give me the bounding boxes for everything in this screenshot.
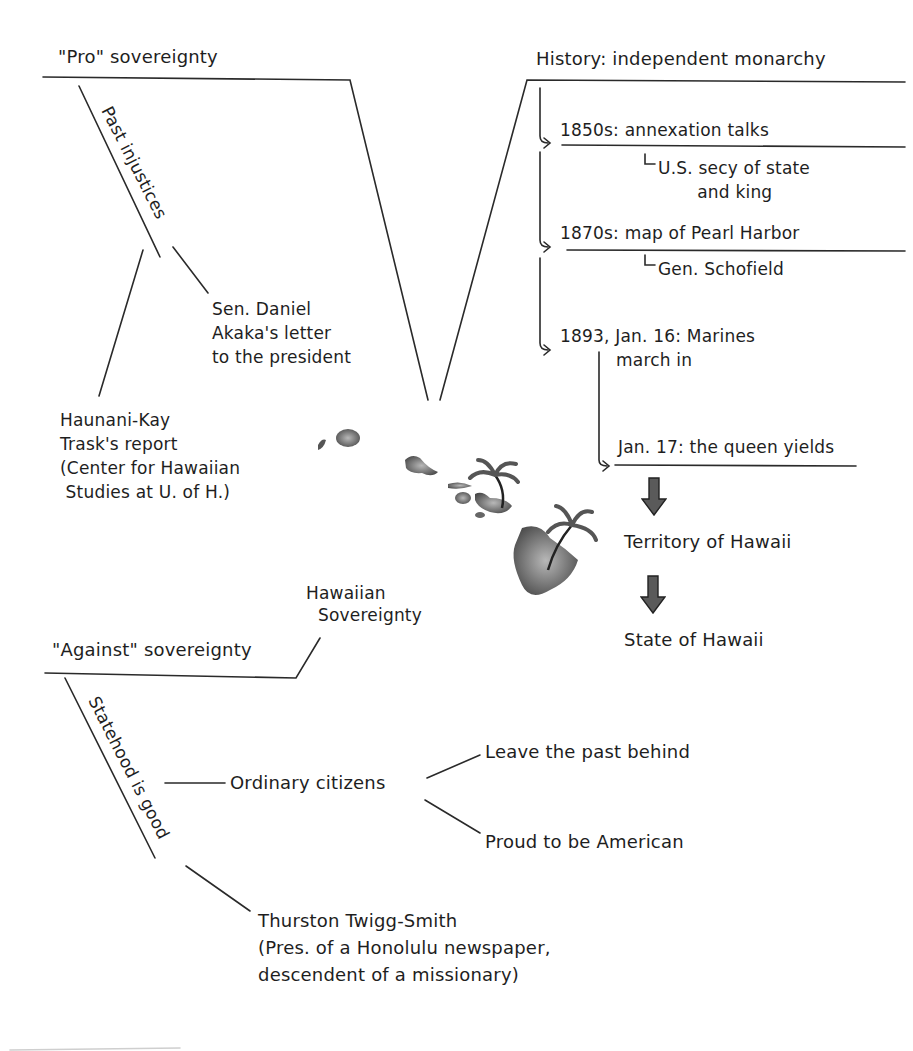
akaka-letter-item: Sen. Daniel Akaka's letter to the presid… — [212, 297, 351, 369]
arrow-1893 — [540, 258, 548, 350]
proud-american-connector — [425, 800, 480, 833]
against-sovereignty-heading: "Against" sovereignty — [52, 638, 252, 662]
arrow-1850s — [540, 88, 548, 143]
down-arrow-icon — [641, 477, 667, 517]
detail-tick-1850s — [645, 154, 655, 164]
arrow-1870s — [540, 152, 548, 247]
event-1893-jan16: 1893, Jan. 16: Marines march in — [560, 324, 755, 372]
state-of-hawaii: State of Hawaii — [624, 628, 764, 652]
leave-past-connector — [427, 755, 480, 778]
trask-report-item: Haunani-Kay Trask's report (Center for H… — [60, 408, 240, 504]
mind-map: "Pro" sovereignty Past injustices Sen. D… — [0, 0, 913, 1051]
territory-of-hawaii: Territory of Hawaii — [624, 530, 792, 554]
pro-sovereignty-heading: "Pro" sovereignty — [58, 45, 218, 69]
underline-1850s — [562, 145, 905, 147]
twigg-smith-connector — [186, 866, 250, 911]
event-1870s-detail: Gen. Schofield — [658, 257, 784, 281]
underline-1870s — [567, 250, 905, 251]
history-heading: History: independent monarchy — [536, 47, 826, 71]
twigg-smith-item: Thurston Twigg-Smith (Pres. of a Honolul… — [258, 907, 551, 988]
event-1850s-detail: U.S. secy of state and king — [658, 156, 810, 204]
down-arrow-icon — [640, 575, 666, 615]
center-title-line2: Sovereignty — [318, 603, 422, 627]
event-1850s: 1850s: annexation talks — [560, 118, 769, 142]
underline-jan17 — [615, 465, 856, 466]
ordinary-citizens: Ordinary citizens — [230, 771, 386, 795]
bottom-edge-mark — [10, 1048, 180, 1050]
proud-to-be-american: Proud to be American — [485, 830, 684, 854]
event-1870s: 1870s: map of Pearl Harbor — [560, 221, 799, 245]
leave-past-behind: Leave the past behind — [485, 740, 690, 764]
event-jan17: Jan. 17: the queen yields — [618, 435, 834, 459]
detail-tick-1870s — [645, 255, 655, 265]
center-title-line1: Hawaiian — [306, 581, 386, 605]
trask-connector — [99, 250, 143, 396]
akaka-connector — [173, 247, 208, 293]
